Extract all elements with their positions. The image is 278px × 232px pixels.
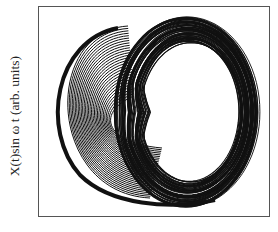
phase-portrait-plot [0, 0, 278, 232]
